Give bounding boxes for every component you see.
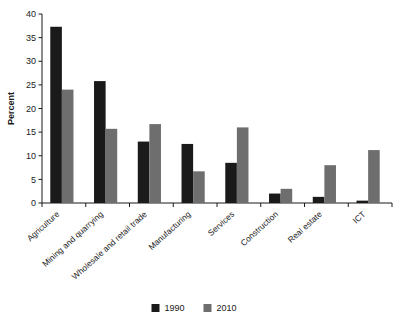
bar (94, 81, 106, 203)
x-category-label: Construction (238, 209, 280, 248)
legend-label: 1990 (165, 303, 185, 313)
y-tick-label: 30 (26, 56, 36, 66)
y-tick-label: 25 (26, 80, 36, 90)
bar (237, 127, 249, 203)
bar (50, 27, 62, 203)
y-tick-label: 15 (26, 127, 36, 137)
bar (281, 189, 293, 203)
bar (106, 129, 118, 203)
x-category-label: Real estate (286, 209, 324, 245)
bars-group (50, 27, 379, 203)
bar (269, 194, 281, 203)
chart-legend: 19902010 (152, 303, 237, 313)
y-tick-label: 40 (26, 9, 36, 19)
y-axis-title: Percent (6, 92, 16, 125)
bar-chart-figure: 0510152025303540Percent AgricultureMinin… (0, 0, 399, 325)
x-category-label: Agriculture (25, 209, 62, 243)
bar (62, 90, 74, 203)
legend-label: 2010 (217, 303, 237, 313)
bar (193, 171, 205, 203)
x-category-label: Wholesale and retail trade (70, 209, 149, 282)
y-tick-label: 0 (31, 198, 36, 208)
y-tick-label: 35 (26, 33, 36, 43)
legend-swatch (204, 304, 212, 312)
y-tick-label: 10 (26, 151, 36, 161)
bar (182, 144, 194, 203)
x-category-label: Services (206, 209, 237, 238)
bar (149, 124, 161, 203)
x-category-label: Manufacturing (146, 209, 192, 252)
bar (225, 163, 237, 203)
bar (324, 165, 336, 203)
bar (138, 142, 150, 203)
category-labels: AgricultureMining and quarryingWholesale… (25, 209, 368, 282)
x-category-label: ICT (351, 209, 368, 225)
chart-canvas: 0510152025303540Percent AgricultureMinin… (0, 0, 399, 325)
y-tick-label: 20 (26, 104, 36, 114)
y-axis: 0510152025303540Percent (6, 9, 42, 208)
y-tick-label: 5 (31, 175, 36, 185)
legend-swatch (152, 304, 160, 312)
x-axis (42, 203, 392, 207)
bar (313, 197, 325, 203)
bar (368, 150, 380, 203)
bar (357, 201, 369, 203)
